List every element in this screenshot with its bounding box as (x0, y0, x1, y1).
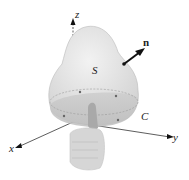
surface-label: S (92, 64, 98, 76)
normal-label: n (143, 36, 149, 48)
x-axis (18, 122, 73, 147)
hand-icon (70, 128, 105, 170)
curve-label: C (141, 110, 148, 122)
y-axis-label: y (173, 131, 178, 143)
normal-vector (124, 52, 140, 64)
x-axis-label: x (9, 142, 14, 154)
x-axis-arrow-icon (15, 143, 22, 148)
stokes-diagram (0, 0, 189, 180)
z-axis-label: z (75, 8, 79, 20)
